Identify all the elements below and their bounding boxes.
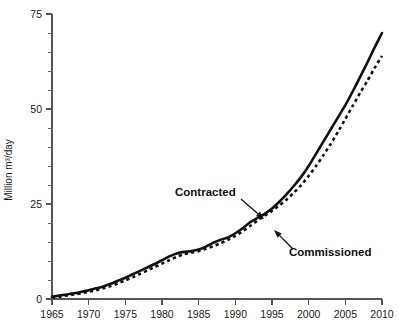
y-tick-label: 75	[30, 8, 42, 20]
x-tick-label: 1985	[187, 308, 211, 320]
x-tick-label: 1990	[224, 308, 248, 320]
x-tick-label: 1995	[260, 308, 284, 320]
x-tick-label: 1975	[114, 308, 138, 320]
x-tick-label: 1970	[77, 308, 101, 320]
chart-container: 0255075196519701975198019851990199520002…	[0, 0, 399, 334]
x-tick-label: 2000	[297, 308, 321, 320]
x-tick-label: 2010	[370, 308, 394, 320]
x-tick-label: 2005	[334, 308, 358, 320]
annotation-leader-line	[241, 199, 258, 214]
x-tick-label: 1980	[150, 308, 174, 320]
y-axis-title-label: Million m³/day	[3, 139, 14, 201]
annotation-label-contracted: Contracted	[175, 186, 236, 198]
y-tick-label: 25	[30, 198, 42, 210]
annotation-label-commissioned: Commissioned	[289, 246, 371, 258]
axis-ticks	[46, 14, 382, 305]
axis-tick-labels: 0255075196519701975198019851990199520002…	[30, 8, 394, 320]
x-tick-label: 1965	[40, 308, 64, 320]
y-tick-label: 50	[30, 103, 42, 115]
y-tick-label: 0	[36, 293, 42, 305]
line-chart: 0255075196519701975198019851990199520002…	[0, 0, 399, 334]
y-axis-title: Million m³/day	[3, 139, 14, 201]
annotation-leader-line	[280, 236, 293, 249]
series-line-commissioned	[52, 56, 382, 298]
